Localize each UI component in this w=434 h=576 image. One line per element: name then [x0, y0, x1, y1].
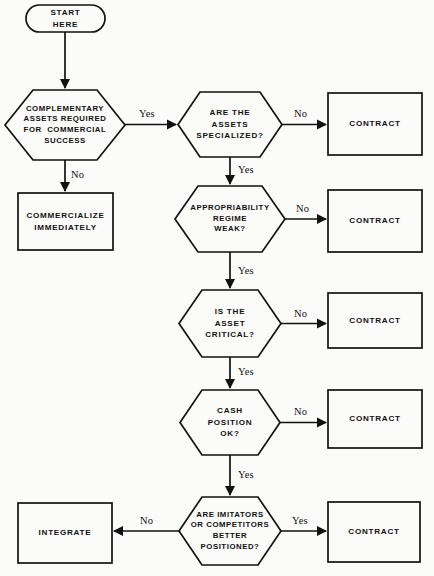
assets-specialized-shape — [178, 92, 282, 157]
commercialize-immediately-shape — [18, 193, 113, 250]
contract-4-shape — [328, 390, 422, 448]
flowchart-canvas: START HERE COMPLEMENTARY ASSETS REQUIRED… — [0, 0, 434, 576]
asset-critical-shape — [179, 290, 281, 357]
cash-position-shape — [180, 390, 280, 455]
contract-5-shape — [328, 502, 420, 562]
appropriability-regime-shape — [175, 186, 285, 252]
integrate-shape — [18, 503, 112, 563]
contract-3-shape — [328, 293, 422, 348]
contract-1-shape — [328, 93, 422, 155]
imitators-positioned-shape — [179, 497, 281, 565]
start-here-shape — [26, 5, 105, 32]
contract-2-shape — [328, 190, 422, 252]
complementary-assets-shape — [5, 90, 125, 160]
flowchart-graphics — [0, 0, 434, 576]
